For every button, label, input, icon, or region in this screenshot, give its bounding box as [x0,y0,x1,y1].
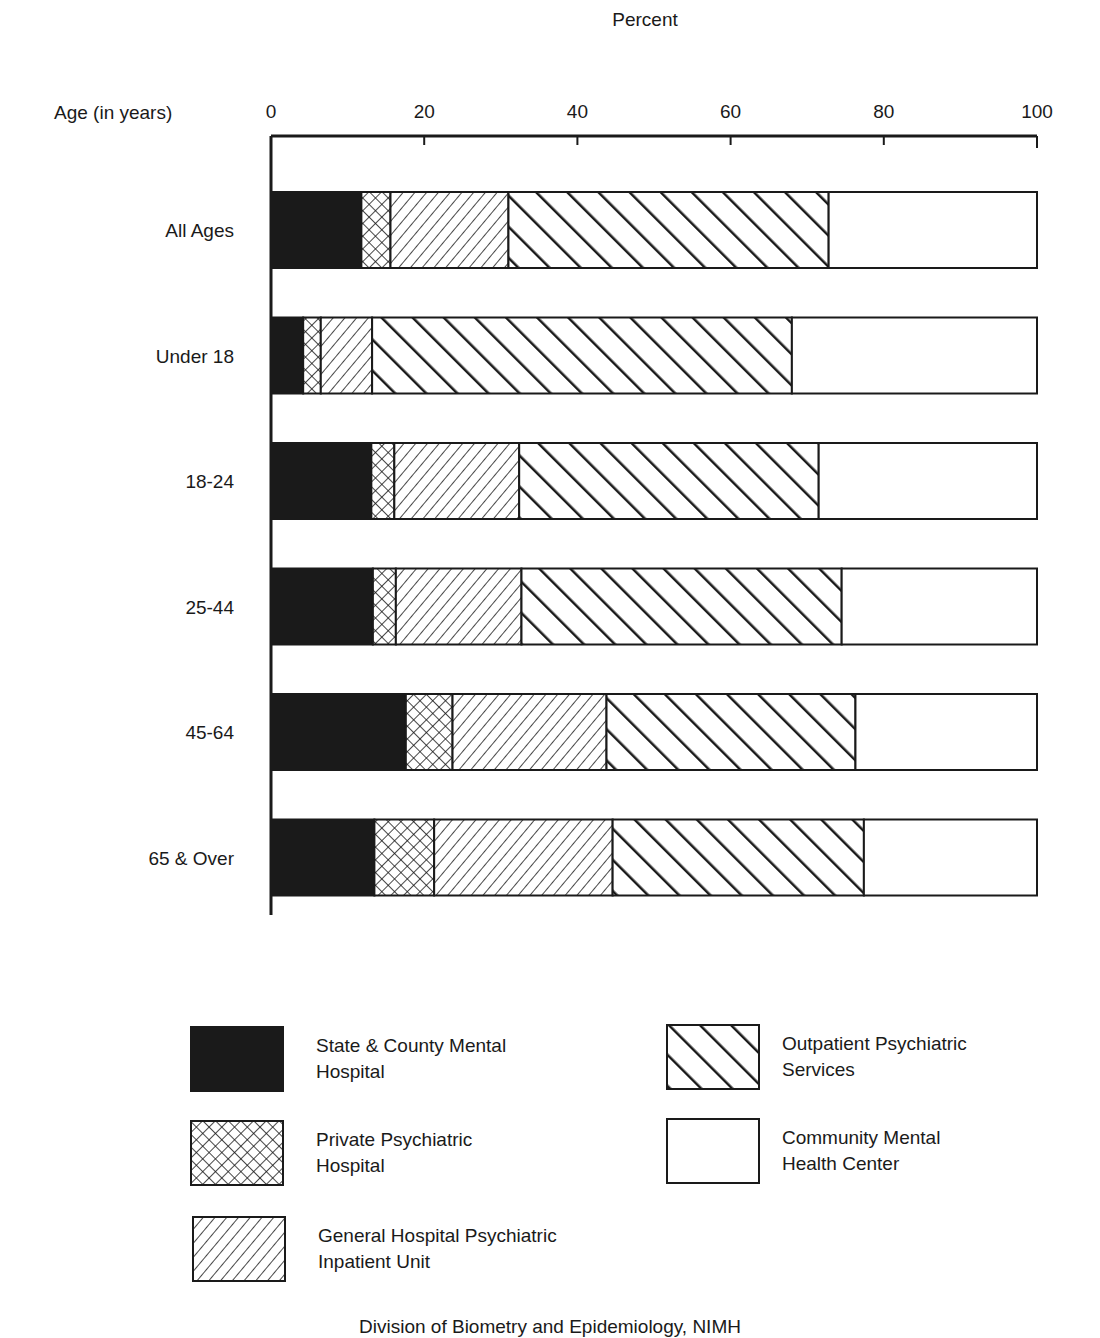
bar-segment [855,694,1037,770]
bar-segment [613,820,864,896]
bar-segment [271,820,374,896]
category-label: 25-44 [185,597,234,618]
bar-group [271,820,1037,896]
category-label: 65 & Over [148,848,234,869]
bar-group [271,569,1037,645]
x-tick-label: 0 [266,101,277,122]
legend-item-cmhc: Community Mental Health Center [666,1118,1082,1184]
bar-segment [829,192,1037,268]
bar-segment [361,192,390,268]
bars [271,192,1037,896]
bar-segment [390,192,508,268]
legend-label: State & County Mental Hospital [316,1033,616,1085]
bar-segment [434,820,612,896]
bar-segment [303,318,321,394]
category-labels: All AgesUnder 1818-2425-4445-6465 & Over [148,220,234,869]
bar-segment [372,318,792,394]
legend-item-state-county: State & County Mental Hospital [190,1026,616,1092]
legend-label-line: Services [782,1057,1082,1083]
category-label: 45-64 [185,722,234,743]
legend-label-line: Inpatient Unit [318,1249,618,1275]
legend-label-line: Hospital [316,1059,616,1085]
bar-segment [792,318,1037,394]
x-axis-label: Percent [612,9,678,30]
bar-segment [453,694,607,770]
bar-group [271,443,1037,519]
chart: Percent Age (in years) 020406080100 All … [0,0,1100,960]
x-tick-label: 100 [1021,101,1053,122]
legend-label-line: Private Psychiatric [316,1127,616,1153]
bar-segment [842,569,1037,645]
x-tick-label: 60 [720,101,741,122]
legend-swatch-crosshatch [190,1120,284,1186]
x-tick-label: 40 [567,101,588,122]
legend-item-outpatient: Outpatient Psychiatric Services [666,1024,1082,1090]
x-axis-ticks: 020406080100 [266,101,1053,148]
bar-segment [394,443,519,519]
source-note: Division of Biometry and Epidemiology, N… [0,1316,1100,1338]
legend-item-general: General Hospital Psychiatric Inpatient U… [192,1216,618,1282]
bar-segment [819,443,1037,519]
bar-segment [271,569,373,645]
legend-label: Private Psychiatric Hospital [316,1127,616,1179]
bar-segment [371,443,394,519]
bar-segment [321,318,372,394]
legend-label-line: Hospital [316,1153,616,1179]
bar-segment [373,569,396,645]
y-axis-label: Age (in years) [54,102,172,123]
bar-segment [374,820,434,896]
legend-label-line: Outpatient Psychiatric [782,1031,1082,1057]
bar-segment [271,443,371,519]
legend-label: Community Mental Health Center [782,1125,1082,1177]
bar-segment [271,694,406,770]
legend-label-line: General Hospital Psychiatric [318,1223,618,1249]
bar-segment [508,192,828,268]
legend-swatch-solid [190,1026,284,1092]
bar-segment [864,820,1037,896]
bar-segment [396,569,522,645]
x-tick-label: 80 [873,101,894,122]
legend-swatch-fine-diagonal [192,1216,286,1282]
bar-segment [271,318,303,394]
bar-group [271,694,1037,770]
legend-label: General Hospital Psychiatric Inpatient U… [318,1223,618,1275]
legend-label: Outpatient Psychiatric Services [782,1031,1082,1083]
bar-group [271,318,1037,394]
legend-label-line: Community Mental [782,1125,1082,1151]
category-label: Under 18 [156,346,234,367]
legend-label-line: Health Center [782,1151,1082,1177]
bar-group [271,192,1037,268]
category-label: All Ages [165,220,234,241]
legend-swatch-bold-diagonal [666,1024,760,1090]
legend-item-private: Private Psychiatric Hospital [190,1120,616,1186]
bar-segment [406,694,453,770]
bar-segment [607,694,856,770]
bar-segment [271,192,361,268]
bar-segment [521,569,841,645]
legend-swatch-white [666,1118,760,1184]
bar-segment [519,443,819,519]
legend-label-line: State & County Mental [316,1033,616,1059]
category-label: 18-24 [185,471,234,492]
x-tick-label: 20 [414,101,435,122]
